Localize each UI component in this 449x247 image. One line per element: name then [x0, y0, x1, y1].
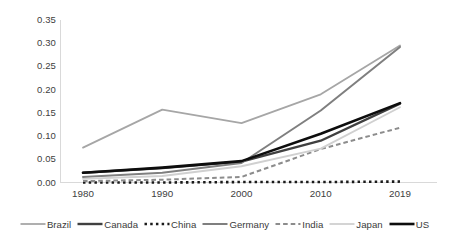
x-axis-tick-label: 1990: [151, 188, 173, 199]
line-chart: 0.350.300.250.200.150.100.050.00 1980199…: [0, 0, 449, 247]
x-axis-tick-label: 1980: [72, 188, 94, 199]
legend-item-brazil[interactable]: Brazil: [17, 219, 74, 230]
x-axis-tick-label: 2010: [310, 188, 332, 199]
legend-item-china[interactable]: China: [141, 219, 199, 230]
legend-item-germany[interactable]: Germany: [199, 219, 272, 230]
legend-label: US: [416, 219, 429, 230]
legend-swatch-japan-icon: [329, 219, 355, 229]
legend-swatch-germany-icon: [202, 219, 228, 229]
legend-label: China: [171, 219, 196, 230]
legend-item-india[interactable]: India: [272, 219, 326, 230]
legend-label: India: [302, 219, 323, 230]
legend-swatch-canada-icon: [77, 219, 103, 229]
legend-swatch-us-icon: [389, 219, 415, 229]
legend-swatch-india-icon: [275, 219, 301, 229]
legend-label: Germany: [229, 219, 269, 230]
x-axis-tick-label: 2000: [230, 188, 252, 199]
legend-item-canada[interactable]: Canada: [74, 219, 141, 230]
legend-item-us[interactable]: US: [386, 219, 432, 230]
legend-label: Japan: [356, 219, 382, 230]
legend-label: Canada: [104, 219, 138, 230]
x-axis-tick-labels: 19801990200020102019: [0, 0, 449, 247]
legend-swatch-brazil-icon: [20, 219, 46, 229]
legend-swatch-china-icon: [144, 219, 170, 229]
chart-legend: BrazilCanadaChinaGermanyIndiaJapanUS: [0, 214, 449, 234]
legend-label: Brazil: [47, 219, 71, 230]
x-axis-tick-label: 2019: [389, 188, 411, 199]
legend-item-japan[interactable]: Japan: [326, 219, 385, 230]
